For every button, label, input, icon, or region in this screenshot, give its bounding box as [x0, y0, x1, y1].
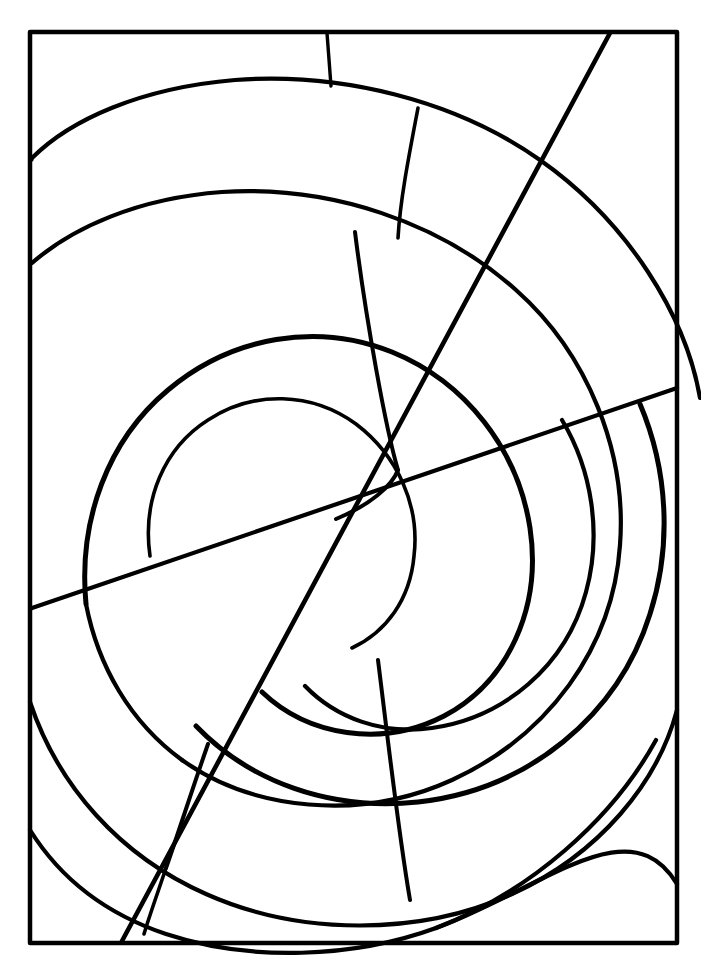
spiral-artwork	[0, 0, 701, 972]
artboard	[0, 0, 701, 972]
